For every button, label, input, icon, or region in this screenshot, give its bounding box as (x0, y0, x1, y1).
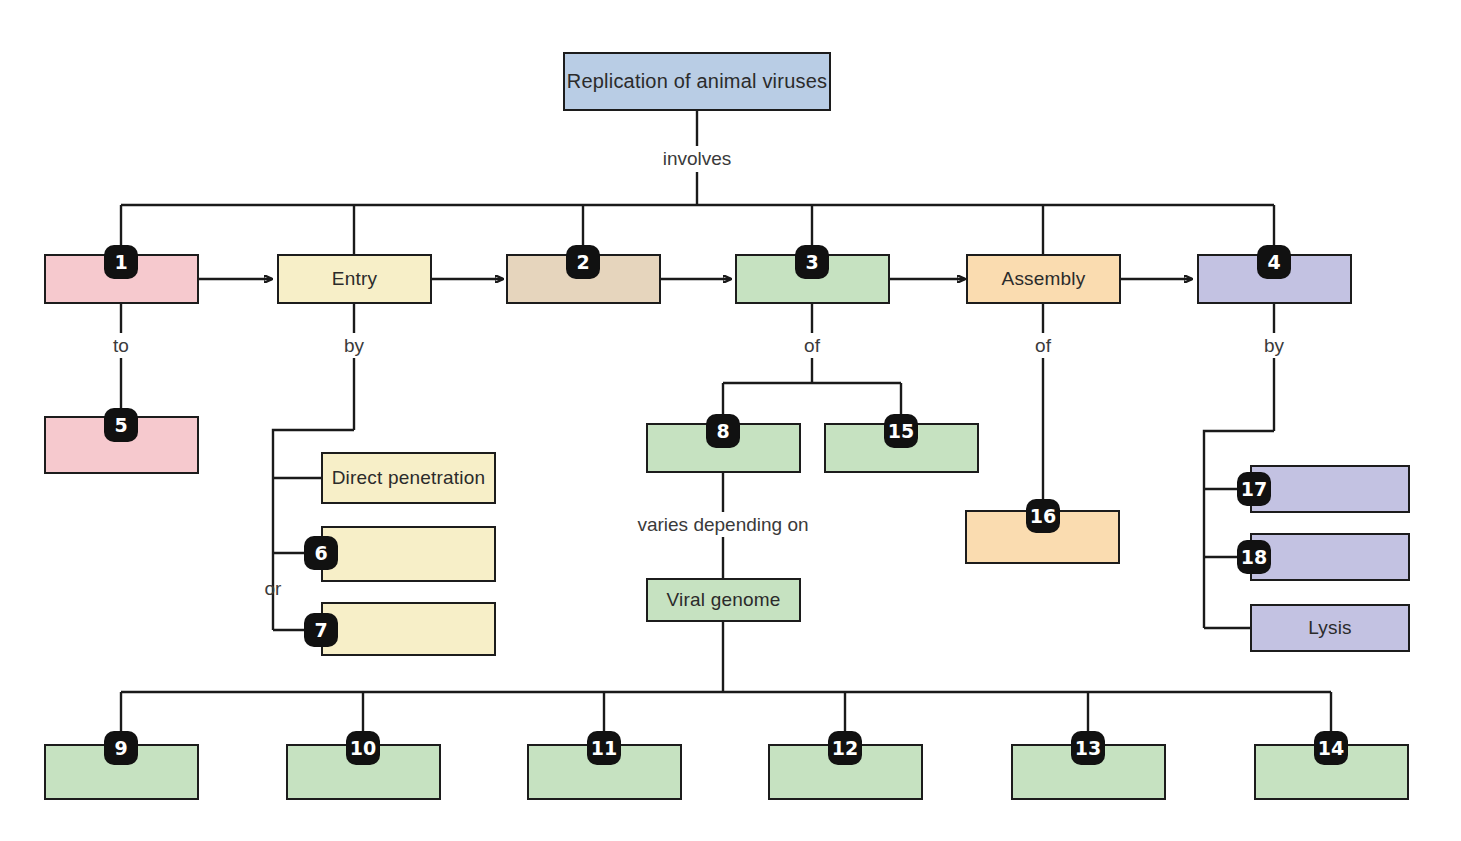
linker-by-release: by (1264, 335, 1284, 357)
node-viral-genome-label: Viral genome (666, 589, 780, 611)
node-root-label: Replication of animal viruses (567, 70, 827, 93)
node-direct-penetration-label: Direct penetration (332, 467, 486, 489)
badge-11: 11 (587, 731, 621, 765)
node-entry[interactable]: Entry (277, 254, 432, 304)
concept-map-diagram: Replication of animal viruses involves 1… (0, 0, 1461, 841)
linker-of-assembly: of (1035, 335, 1051, 357)
node-entry-label: Entry (332, 268, 377, 290)
badge-7: 7 (304, 613, 338, 647)
badge-18: 18 (1237, 540, 1271, 574)
node-viral-genome[interactable]: Viral genome (646, 578, 801, 622)
node-assembly[interactable]: Assembly (966, 254, 1121, 304)
badge-16: 16 (1026, 499, 1060, 533)
badge-8: 8 (706, 414, 740, 448)
badge-13: 13 (1071, 731, 1105, 765)
badge-6: 6 (304, 536, 338, 570)
linker-by-entry: by (344, 335, 364, 357)
node-entry-option-7[interactable] (321, 602, 496, 656)
linker-of-synthesis: of (804, 335, 820, 357)
badge-4: 4 (1257, 245, 1291, 279)
linker-to: to (113, 335, 129, 357)
badge-12: 12 (828, 731, 862, 765)
badge-5: 5 (104, 408, 138, 442)
badge-9: 9 (104, 731, 138, 765)
linker-varies-depending-on: varies depending on (637, 514, 808, 536)
badge-3: 3 (795, 245, 829, 279)
badge-2: 2 (566, 245, 600, 279)
badge-1: 1 (104, 245, 138, 279)
node-assembly-label: Assembly (1002, 268, 1086, 290)
node-release-mode-lysis-label: Lysis (1308, 617, 1352, 639)
node-root[interactable]: Replication of animal viruses (563, 52, 831, 111)
node-release-mode-17[interactable] (1250, 465, 1410, 513)
badge-15: 15 (884, 414, 918, 448)
badge-14: 14 (1314, 731, 1348, 765)
node-entry-option-6[interactable] (321, 526, 496, 582)
badge-10: 10 (346, 731, 380, 765)
node-release-mode-18[interactable] (1250, 533, 1410, 581)
badge-17: 17 (1237, 472, 1271, 506)
node-release-mode-lysis[interactable]: Lysis (1250, 604, 1410, 652)
node-direct-penetration[interactable]: Direct penetration (321, 452, 496, 504)
linker-involves: involves (663, 148, 732, 170)
linker-or: or (265, 578, 282, 600)
